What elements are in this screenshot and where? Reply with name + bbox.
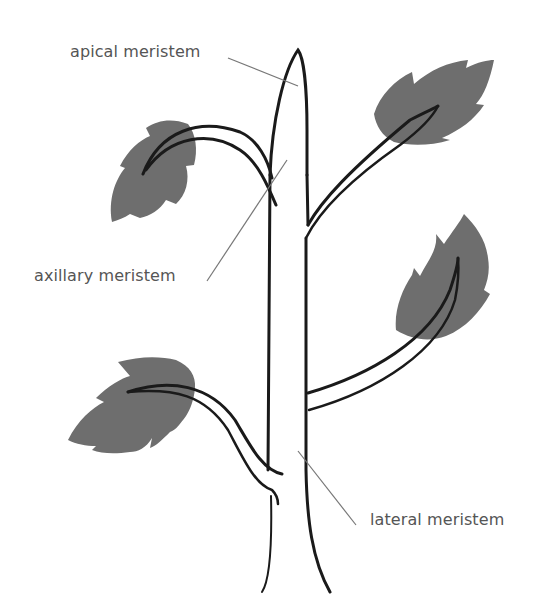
leader-axillary [207, 160, 287, 281]
plant-diagram: apical meristem axillary meristem latera… [0, 0, 539, 615]
label-axillary-meristem: axillary meristem [34, 266, 176, 285]
label-lateral-meristem: lateral meristem [370, 510, 504, 529]
stem [262, 50, 330, 592]
leaf-top-left [111, 121, 196, 222]
leaf-middle-right [396, 214, 490, 339]
label-apical-meristem: apical meristem [70, 42, 201, 61]
leaf-bottom-left [68, 357, 195, 453]
leaf-top-right [374, 60, 494, 145]
